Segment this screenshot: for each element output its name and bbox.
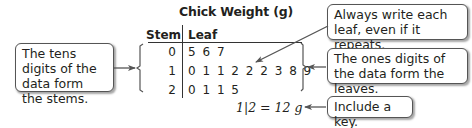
annotation-arrows — [0, 0, 472, 128]
left-bracket-icon — [137, 44, 143, 92]
right-bracket-icon — [301, 43, 306, 91]
arrow-repeat-icon — [256, 26, 328, 62]
